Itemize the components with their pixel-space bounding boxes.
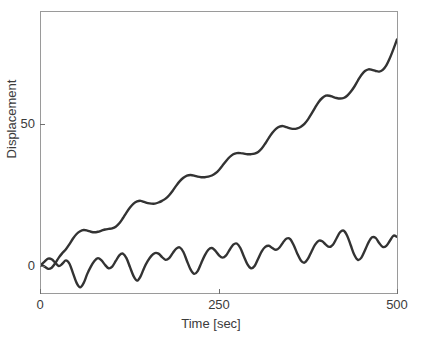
xtick-mark-500 (397, 289, 398, 294)
xtick-mark-0 (40, 289, 41, 294)
series-line-upper-staircase (41, 40, 397, 269)
series-line-lower-oscillating (41, 230, 397, 287)
y-axis-label: Displacement (5, 59, 19, 179)
xtick-label-0: 0 (20, 298, 60, 312)
plot-svg (41, 12, 397, 293)
x-axis-label: Time [sec] (0, 316, 422, 331)
xtick-mark-250 (219, 289, 220, 294)
xtick-label-500: 500 (377, 298, 417, 312)
ytick-mark-50 (40, 124, 45, 125)
chart-screenshot: 0 50 0 250 500 Displacement Time [sec] (0, 0, 422, 337)
xtick-label-250: 250 (199, 298, 239, 312)
plot-area (40, 11, 398, 294)
ytick-mark-0 (40, 266, 45, 267)
ytick-label-0: 0 (8, 259, 35, 273)
